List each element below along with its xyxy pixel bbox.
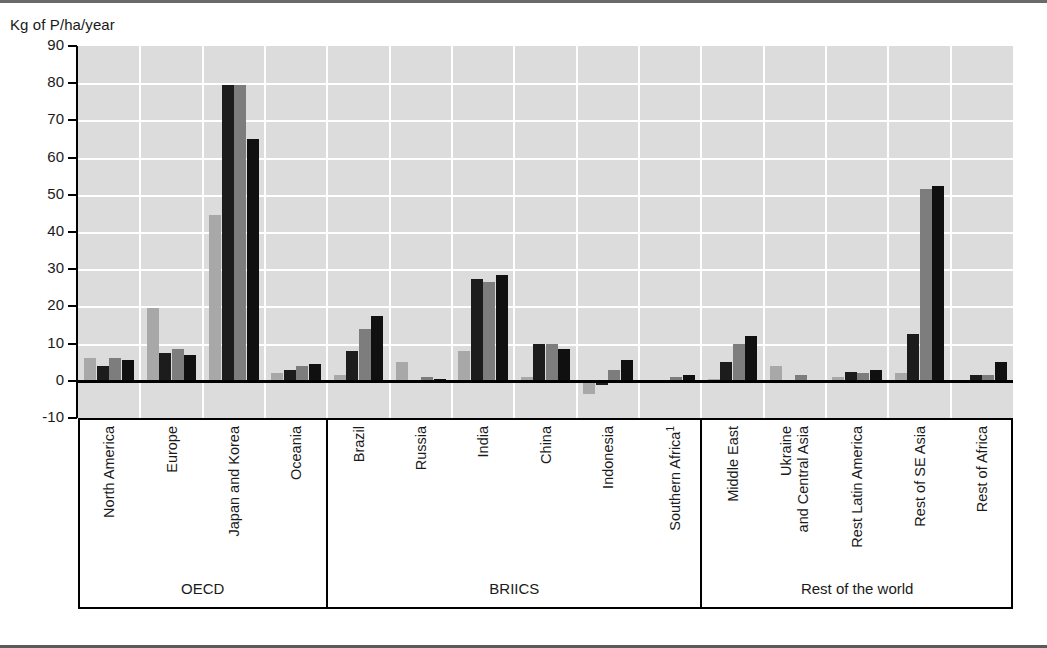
- y-axis-tick-label: 0: [8, 371, 64, 388]
- gridline-vertical: [638, 46, 640, 418]
- category-label-line: and Central Asia: [795, 426, 812, 532]
- bar: [84, 358, 96, 380]
- y-axis-tick-label: 80: [8, 73, 64, 90]
- top-rule: [0, 0, 1047, 3]
- bar: [109, 358, 121, 380]
- bar: [184, 355, 196, 381]
- plot-area: [78, 46, 1013, 418]
- y-axis-tick: [68, 343, 77, 345]
- gridline-vertical: [763, 46, 765, 418]
- y-axis-tick: [68, 231, 77, 233]
- bar: [159, 353, 171, 381]
- category-label-line: Brazil: [352, 426, 367, 462]
- group-label: Rest of the world: [717, 580, 997, 597]
- bar: [483, 282, 495, 381]
- group-separator-plot: [700, 46, 702, 418]
- bar: [745, 336, 757, 381]
- y-axis-tick: [68, 305, 77, 307]
- gridline-vertical: [576, 46, 578, 418]
- bar: [558, 349, 570, 381]
- category-label-line: Japan and Korea: [227, 426, 242, 536]
- bar: [172, 349, 184, 381]
- y-axis-tick: [68, 268, 77, 270]
- gridline-vertical: [887, 46, 889, 418]
- bar: [359, 329, 371, 381]
- gridline-horizontal: [78, 195, 1013, 197]
- gridline-vertical: [264, 46, 266, 418]
- bar: [720, 362, 732, 381]
- bar: [209, 215, 221, 381]
- bar: [621, 360, 633, 380]
- gridline-vertical: [451, 46, 453, 418]
- gridline-vertical: [202, 46, 204, 418]
- y-axis-title: Kg of P/ha/year: [10, 16, 115, 33]
- bar: [458, 351, 470, 381]
- y-axis-tick-label: 20: [8, 296, 64, 313]
- bar: [97, 366, 109, 381]
- bar: [247, 139, 259, 381]
- group-separator: [700, 419, 702, 609]
- category-label-line: Middle East: [726, 426, 741, 502]
- gridline-vertical: [139, 46, 141, 418]
- bar: [396, 362, 408, 381]
- bar: [932, 186, 944, 381]
- y-axis-tick: [68, 157, 77, 159]
- bar: [733, 344, 745, 381]
- bar: [222, 85, 234, 381]
- bar: [309, 364, 321, 381]
- y-axis-tick-label: 30: [8, 259, 64, 276]
- gridline-vertical: [513, 46, 515, 418]
- y-axis-tick: [68, 45, 77, 47]
- y-axis-tick: [68, 82, 77, 84]
- y-axis-tick-label: -10: [8, 408, 64, 425]
- category-label-line: Oceania: [289, 426, 304, 480]
- bar: [346, 351, 358, 381]
- y-axis-tick: [68, 417, 77, 419]
- y-axis-tick-label: 90: [8, 36, 64, 53]
- bar: [533, 344, 545, 381]
- gridline-horizontal: [78, 158, 1013, 160]
- y-axis-tick: [68, 194, 77, 196]
- y-axis-tick: [68, 380, 77, 382]
- y-axis-tick-label: 10: [8, 334, 64, 351]
- gridline-horizontal: [78, 83, 1013, 85]
- gridline-vertical: [950, 46, 952, 418]
- bar: [496, 275, 508, 381]
- category-label-line: Europe: [165, 426, 180, 473]
- bar: [907, 334, 919, 381]
- bar: [770, 366, 782, 381]
- y-axis-tick: [68, 119, 77, 121]
- group-separator-plot: [326, 46, 328, 418]
- category-label-line: China: [539, 426, 554, 464]
- category-label-line: Ukraine: [778, 426, 795, 532]
- bar: [296, 366, 308, 381]
- y-axis-tick-label: 70: [8, 110, 64, 127]
- category-label-line: Southern Africa1: [663, 426, 683, 531]
- bar: [122, 360, 134, 380]
- bar: [147, 308, 159, 381]
- group-label: BRIICS: [374, 580, 654, 597]
- bar: [234, 85, 246, 381]
- bar: [371, 316, 383, 381]
- gridline-horizontal: [78, 120, 1013, 122]
- category-label-line: North America: [102, 426, 117, 518]
- category-label-line: Indonesia: [601, 426, 616, 489]
- zero-baseline: [78, 380, 1013, 383]
- y-axis-tick-label: 40: [8, 222, 64, 239]
- category-label-line: Rest of Africa: [975, 426, 990, 512]
- y-axis-tick-label: 60: [8, 148, 64, 165]
- category-label-line: India: [476, 426, 491, 457]
- category-label-line: Rest of SE Asia: [913, 426, 928, 527]
- bar: [995, 362, 1007, 381]
- category-label-line: Russia: [414, 426, 429, 470]
- bar: [546, 344, 558, 381]
- gridline-vertical: [389, 46, 391, 418]
- bar: [920, 189, 932, 381]
- category-axis-top-rule: [78, 418, 1013, 420]
- bar: [471, 279, 483, 381]
- footnote-marker: 1: [665, 426, 676, 432]
- y-axis-tick-label: 50: [8, 185, 64, 202]
- gridline-vertical: [825, 46, 827, 418]
- group-label: OECD: [63, 580, 343, 597]
- category-label-line: Rest Latin America: [850, 426, 865, 548]
